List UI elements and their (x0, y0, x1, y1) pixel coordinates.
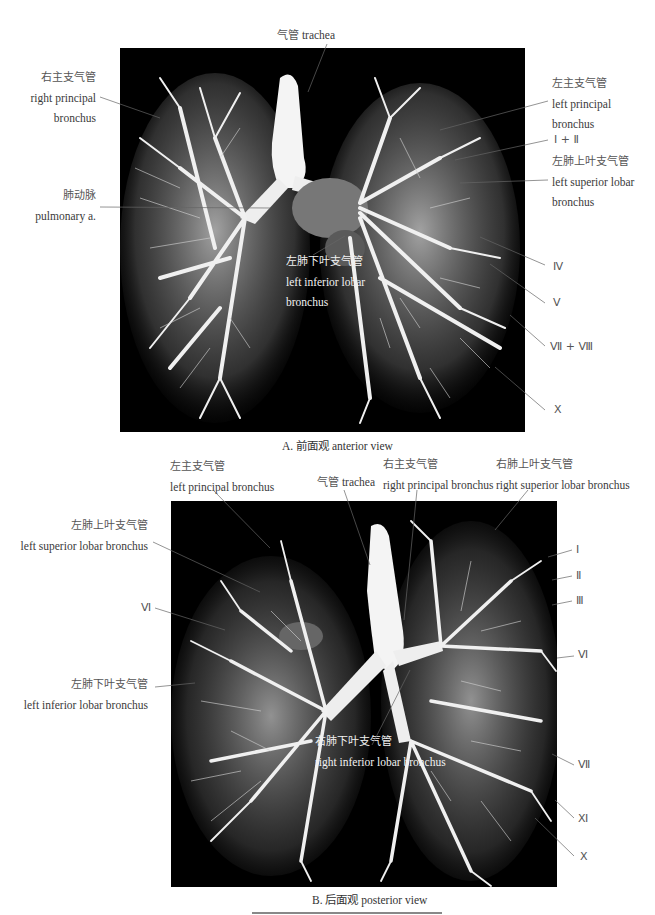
label-segment-11-b: Ⅺ (578, 812, 588, 825)
label-segment-6-left-b: Ⅵ (141, 601, 151, 614)
label-segment-10-b: Ⅹ (580, 850, 588, 863)
bronchial-tree-cast-anterior (120, 48, 525, 432)
caption-posterior-view: B. 后面观 posterior view (312, 891, 427, 907)
label-segment-7-8-a: Ⅶ + Ⅷ (550, 340, 593, 353)
label-left-principal-bronchus-b: 左主支气管 left principal bronchus (170, 457, 274, 497)
label-segment-1-b: Ⅰ (576, 543, 579, 556)
label-segment-3-b: Ⅲ (576, 594, 584, 607)
label-segment-7-b: Ⅶ (578, 758, 590, 771)
label-segment-5-a: Ⅴ (553, 296, 561, 309)
label-right-superior-lobar-bronchus-b: 右肺上叶支气管 right superior lobar bronchus (496, 455, 630, 495)
label-pulmonary-artery-a: 肺动脉 pulmonary a. (30, 186, 96, 226)
label-right-principal-bronchus-b: 右主支气管 right principal bronchus (383, 455, 494, 495)
label-left-inferior-lobar-bronchus-b: 左肺下叶支气管 left inferior lobar bronchus (20, 675, 148, 715)
posterior-view-image (171, 501, 557, 887)
label-left-principal-bronchus-a: 左主支气管 left principal bronchus (552, 74, 611, 134)
label-segment-4-a: Ⅳ (553, 260, 563, 273)
label-right-principal-bronchus-a: 右主支气管 right principal bronchus (30, 68, 96, 128)
footer-rule (252, 912, 442, 914)
label-right-inferior-lobar-bronchus-b: 右肺下叶支气管 right inferior lobar bronchus (315, 732, 446, 772)
label-segment-6-right-b: Ⅵ (578, 648, 588, 661)
bronchial-tree-cast-posterior (171, 501, 557, 887)
label-left-superior-lobar-bronchus-a: 左肺上叶支气管 left superior lobar bronchus (552, 152, 634, 212)
label-left-inferior-lobar-bronchus-a: 左肺下叶支气管 left inferior lobar bronchus (286, 252, 365, 312)
label-left-superior-lobar-bronchus-b: 左肺上叶支气管 left superior lobar bronchus (20, 516, 148, 556)
label-trachea-a: 气管 trachea (277, 25, 335, 46)
label-trachea-b: 气管 trachea (317, 472, 375, 493)
label-segment-10-a: Ⅹ (554, 403, 562, 416)
label-segment-1-2-a: Ⅰ + Ⅱ (554, 133, 579, 146)
caption-anterior-view: A. 前面观 anterior view (282, 437, 393, 453)
anterior-view-image (120, 48, 525, 432)
label-segment-2-b: Ⅱ (576, 569, 581, 582)
